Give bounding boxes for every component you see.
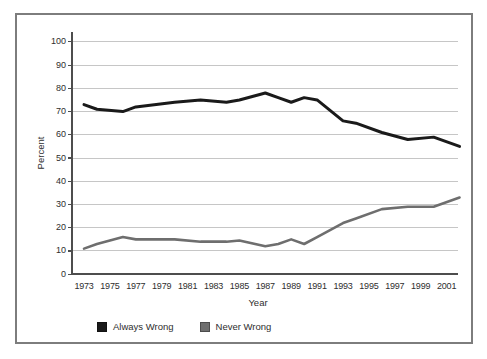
y-axis-title: Percent — [35, 122, 47, 184]
y-tick-label: 90 — [38, 60, 66, 71]
legend: Always Wrong Never Wrong — [97, 321, 271, 332]
y-tick-label: 30 — [38, 199, 66, 210]
never-wrong-line — [84, 198, 460, 249]
y-tick-label: 70 — [38, 106, 66, 117]
x-axis-tick-labels: 1973197519771979198119831985198719891991… — [0, 281, 487, 293]
y-tick-label: 80 — [38, 83, 66, 94]
always-wrong-line — [84, 93, 460, 146]
legend-item-always-wrong: Always Wrong — [97, 321, 174, 332]
legend-label-always-wrong: Always Wrong — [113, 321, 174, 332]
y-tick-label: 10 — [38, 245, 66, 256]
legend-label-never-wrong: Never Wrong — [216, 321, 272, 332]
y-tick-label: 20 — [38, 222, 66, 233]
always-wrong-swatch-icon — [97, 322, 107, 332]
chart-figure: 0102030405060708090100 19731975197719791… — [0, 0, 487, 359]
x-axis-title: Year — [233, 297, 283, 308]
never-wrong-swatch-icon — [200, 322, 210, 332]
legend-item-never-wrong: Never Wrong — [200, 321, 272, 332]
y-tick-label: 0 — [38, 269, 66, 280]
x-tick-label: 2001 — [432, 281, 462, 291]
y-tick-label: 100 — [38, 36, 66, 47]
